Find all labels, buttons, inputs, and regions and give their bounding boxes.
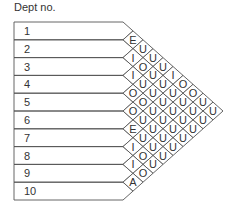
relationship-code: U: [149, 69, 157, 81]
relationship-code: A: [129, 176, 137, 188]
department-number: 6: [24, 114, 30, 126]
relationship-code: U: [159, 150, 167, 162]
relationship-code: E: [129, 123, 136, 135]
relationship-code: U: [169, 141, 177, 153]
relationship-code: U: [159, 114, 167, 126]
department-row: 5: [14, 93, 133, 111]
relationship-code: U: [149, 52, 157, 64]
relationship-code: U: [149, 105, 157, 117]
relationship-code: U: [189, 105, 197, 117]
department-row: 4: [14, 75, 133, 93]
department-row: 8: [14, 147, 133, 165]
relationship-code: O: [139, 96, 148, 108]
relationship-grid: EUUUIOOUUIOUUUUUUIUUUUUUOOUUUUOUUUUEUUUI…: [123, 31, 223, 191]
relationship-code: I: [131, 158, 134, 170]
relationship-code: U: [149, 87, 157, 99]
relationship-code: U: [139, 132, 147, 144]
department-row: 9: [14, 164, 133, 182]
department-number: 1: [24, 25, 30, 37]
relationship-code: I: [131, 69, 134, 81]
relationship-code: O: [139, 150, 148, 162]
relationship-code: O: [129, 87, 138, 99]
department-row: 7: [14, 129, 133, 147]
department-number: 2: [24, 43, 30, 55]
relationship-code: U: [139, 114, 147, 126]
relationship-code: U: [199, 114, 207, 126]
relationship-code: U: [209, 105, 217, 117]
relationship-code: U: [179, 132, 187, 144]
department-row: 6: [14, 111, 133, 129]
relationship-code: U: [149, 123, 157, 135]
department-number: 8: [24, 150, 30, 162]
relationship-code: U: [149, 158, 157, 170]
department-number: 4: [24, 78, 30, 90]
relationship-code: O: [189, 87, 198, 99]
relationship-code: I: [171, 69, 174, 81]
relationship-code: I: [131, 52, 134, 64]
relationship-code: U: [169, 123, 177, 135]
relationship-code: O: [139, 61, 148, 73]
department-number: 7: [24, 132, 30, 144]
relationship-code: U: [159, 78, 167, 90]
relationship-code: U: [139, 43, 147, 55]
relationship-code: U: [159, 96, 167, 108]
relationship-code: U: [169, 105, 177, 117]
department-row: 2: [14, 40, 133, 58]
relationship-code: O: [139, 167, 148, 179]
relationship-code: U: [179, 114, 187, 126]
department-number: 5: [24, 96, 30, 108]
relationship-code: O: [179, 78, 188, 90]
department-row: 3: [14, 58, 133, 76]
relationship-code: U: [169, 87, 177, 99]
relationship-code: U: [199, 96, 207, 108]
relationship-chart: 12345678910EUUUIOOUUIOUUUUUUIUUUUUUOOUUU…: [0, 0, 231, 208]
relationship-code: U: [159, 132, 167, 144]
relationship-code: U: [179, 96, 187, 108]
department-row: 1: [14, 22, 133, 40]
relationship-code: U: [139, 78, 147, 90]
relationship-code: U: [189, 123, 197, 135]
department-row: 10: [14, 182, 133, 200]
relationship-code: U: [149, 141, 157, 153]
department-number: 10: [24, 185, 36, 197]
relationship-code: I: [131, 141, 134, 153]
department-number: 9: [24, 167, 30, 179]
department-number: 3: [24, 61, 30, 73]
relationship-code: O: [129, 105, 138, 117]
relationship-code: E: [129, 34, 136, 46]
relationship-code: U: [159, 61, 167, 73]
